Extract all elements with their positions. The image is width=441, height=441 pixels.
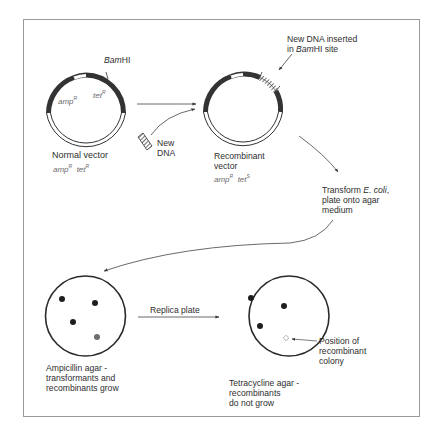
- insert-label-line2: in BamHI site: [287, 44, 338, 54]
- colony: [248, 295, 254, 301]
- new-dna-label-line1: New: [157, 138, 174, 148]
- recombinant-caption-line1: Recombinant: [214, 151, 265, 161]
- transform-label-line2: plate onto agar: [322, 195, 379, 205]
- tetracycline-caption-line3: do not grow: [229, 398, 274, 408]
- plating-arrow: [104, 220, 333, 271]
- transform-arrow: [299, 136, 338, 172]
- missing-colony-outline: [284, 336, 289, 341]
- recombinant-colony: [94, 334, 100, 340]
- tet-gene-segment-a: [243, 74, 260, 78]
- new-dna-arrow: [151, 109, 195, 135]
- new-dna-fragment: [138, 133, 152, 150]
- bamhi-label: BamHI: [104, 55, 130, 65]
- insert-label-line1: New DNA inserted: [287, 34, 357, 44]
- recombinant-position-line3: colony: [319, 356, 344, 366]
- colony: [92, 300, 98, 306]
- ampicillin-caption-line2: transformants and: [46, 373, 115, 383]
- normal-vector-genotype: ampR tetR: [53, 161, 89, 175]
- replica-plate-label: Replica plate: [150, 305, 200, 315]
- transform-label-line3: medium: [322, 205, 353, 215]
- recombinant-genotype: ampR tetS: [214, 171, 250, 185]
- recombinant-position-line2: recombinant: [319, 346, 366, 356]
- colony: [257, 323, 263, 329]
- colony: [70, 319, 76, 325]
- colony: [59, 296, 65, 302]
- inserted-dna-segment: [260, 78, 276, 92]
- new-dna-label-line2: DNA: [157, 148, 175, 158]
- ampicillin-caption-line1: Ampicillin agar -: [46, 363, 107, 373]
- tet-gene-segment-b: [276, 91, 281, 112]
- tetracycline-caption-line1: Tetracycline agar -: [229, 378, 299, 388]
- ampicillin-caption-line3: recombinants grow: [46, 383, 119, 393]
- recombinant-vector-plasmid: [204, 72, 283, 146]
- amp-gene-label: ampR: [58, 93, 77, 107]
- normal-vector-caption: Normal vector: [52, 150, 108, 160]
- amp-gene-segment: [206, 77, 232, 113]
- colony: [281, 303, 287, 309]
- bamhi-site-pointer: [106, 72, 108, 79]
- recombinant-position-line1: Position of: [319, 336, 359, 346]
- normal-vector-plasmid: [47, 72, 126, 147]
- tetracycline-caption-line2: recombinants: [229, 388, 281, 398]
- recombinant-caption-line2: vector: [214, 161, 237, 171]
- transform-label-line1: Transform E. coli,: [322, 185, 389, 195]
- insert-label-pointer: [279, 54, 292, 70]
- tet-gene-label: tetR: [93, 87, 106, 101]
- ampicillin-plate: [46, 276, 126, 356]
- tetracycline-plate: [248, 276, 329, 356]
